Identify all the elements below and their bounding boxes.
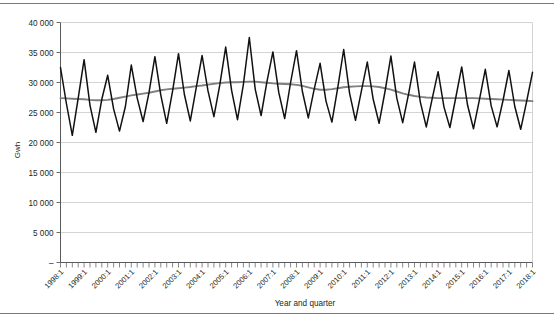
- x-tick-label: 2013:1: [397, 268, 420, 291]
- x-tick-label: 2009:1: [302, 268, 325, 291]
- x-tick-label: 2008:1: [279, 268, 302, 291]
- chart-figure: –5 00010 00015 00020 00025 00030 00035 0…: [0, 0, 554, 329]
- x-tick-label: 1999:1: [66, 268, 89, 291]
- y-tick-label: 35 000: [28, 49, 53, 58]
- x-tick-label: 2018:1: [515, 268, 538, 291]
- x-tick-label: 2000:1: [90, 268, 113, 291]
- x-tick-label: 2016:1: [467, 268, 490, 291]
- line-chart-svg: –5 00010 00015 00020 00025 00030 00035 0…: [0, 0, 554, 329]
- y-tick-label: –: [49, 259, 54, 268]
- x-axis-group: 1998:11999:12000:12001:12002:12003:12004…: [43, 23, 538, 291]
- x-tick-label: 2004:1: [184, 268, 207, 291]
- x-tick-label: 2017:1: [491, 268, 514, 291]
- series-line-trend: [61, 82, 533, 102]
- x-tick-label: 2007:1: [255, 268, 278, 291]
- x-tick-label: 2001:1: [113, 268, 136, 291]
- y-tick-label: 15 000: [28, 169, 53, 178]
- y-axis-group: –5 00010 00015 00020 00025 00030 00035 0…: [28, 19, 60, 268]
- y-tick-label: 5 000: [33, 229, 54, 238]
- x-tick-label: 2003:1: [161, 268, 184, 291]
- x-tick-label: 2002:1: [137, 268, 160, 291]
- x-axis-title: Year and quarter: [275, 299, 336, 308]
- y-tick-label: 10 000: [28, 199, 53, 208]
- x-tick-label: 2012:1: [373, 268, 396, 291]
- y-tick-label: 30 000: [28, 79, 53, 88]
- x-tick-label: 2005:1: [208, 268, 231, 291]
- plot-area: –5 00010 00015 00020 00025 00030 00035 0…: [0, 0, 554, 329]
- y-axis-title: Gwh: [13, 142, 22, 158]
- x-tick-label: 1998:1: [43, 268, 66, 291]
- x-tick-label: 2015:1: [444, 268, 467, 291]
- y-tick-label: 40 000: [28, 19, 53, 28]
- y-tick-label: 20 000: [28, 139, 53, 148]
- x-tick-label: 2011:1: [350, 268, 372, 290]
- y-tick-label: 25 000: [28, 109, 53, 118]
- x-tick-label: 2010:1: [326, 268, 349, 291]
- x-tick-label: 2014:1: [420, 268, 443, 291]
- x-tick-label: 2006:1: [231, 268, 254, 291]
